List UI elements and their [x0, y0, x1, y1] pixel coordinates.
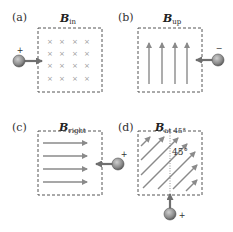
panel-c: + — [38, 131, 127, 195]
field-arrows-right-icon — [43, 143, 87, 182]
svg-text:×: × — [84, 50, 90, 58]
charge-sign: − — [216, 44, 223, 53]
svg-text:×: × — [59, 75, 65, 83]
svg-text:×: × — [72, 62, 78, 70]
field-arrows-diagonal-icon — [141, 137, 197, 191]
charge-sign: + — [121, 150, 128, 159]
svg-text:×: × — [59, 38, 65, 46]
field-region-c — [38, 131, 102, 195]
charge-sign: + — [17, 46, 24, 55]
svg-text:×: × — [47, 50, 53, 58]
charge-particle-icon — [13, 55, 25, 67]
svg-text:×: × — [84, 62, 90, 70]
svg-text:×: × — [72, 38, 78, 46]
angle-label: 45° — [172, 147, 188, 157]
svg-text:×: × — [59, 50, 65, 58]
charge-particle-icon — [164, 208, 176, 220]
svg-text:×: × — [84, 75, 90, 83]
panel-b: − — [138, 28, 224, 92]
svg-text:×: × — [47, 75, 53, 83]
charge-sign: + — [179, 211, 186, 220]
svg-text:×: × — [59, 62, 65, 70]
svg-text:×: × — [72, 75, 78, 83]
svg-text:×: × — [47, 38, 53, 46]
charge-particle-icon — [212, 54, 224, 66]
panel-d: 45° + — [138, 131, 202, 220]
field-arrows-up-icon — [149, 43, 187, 84]
svg-text:×: × — [47, 62, 53, 70]
panel-a: ×××× ×××× ×××× ×××× + — [13, 28, 102, 92]
diagram-canvas: ×××× ×××× ×××× ×××× + − + — [0, 0, 233, 232]
svg-text:×: × — [84, 38, 90, 46]
x-marks-grid-icon: ×××× ×××× ×××× ×××× — [47, 38, 90, 83]
charge-particle-icon — [112, 158, 124, 170]
field-region-b — [138, 28, 202, 92]
svg-text:×: × — [72, 50, 78, 58]
